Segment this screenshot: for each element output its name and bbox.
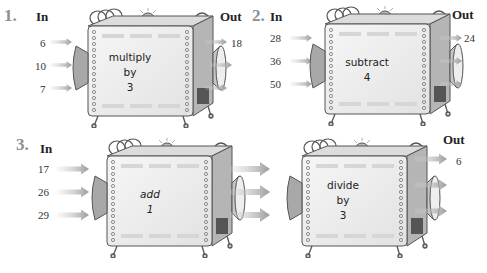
rule-line: multiply bbox=[95, 50, 165, 65]
arrow-right-icon bbox=[205, 81, 227, 95]
problem-number: 1. bbox=[4, 6, 17, 26]
in-label: In bbox=[270, 9, 282, 25]
arrow-right-icon bbox=[230, 162, 270, 176]
arrow-right-icon bbox=[440, 54, 462, 68]
problem-number: 3. bbox=[16, 135, 29, 155]
rule-line: 4 bbox=[332, 70, 402, 85]
arrow-right-icon bbox=[415, 204, 447, 218]
rule-line: subtract bbox=[332, 55, 402, 70]
rule-line: by bbox=[308, 193, 378, 208]
arrow-right-icon bbox=[57, 185, 89, 199]
arrow-right-icon bbox=[440, 77, 462, 91]
rule-line: 1 bbox=[115, 202, 185, 217]
input-value: 7 bbox=[40, 83, 46, 95]
input-value: 28 bbox=[270, 32, 281, 44]
arrow-right-icon bbox=[57, 162, 89, 176]
output-value: 18 bbox=[231, 37, 242, 49]
output-value: 6 bbox=[456, 155, 462, 167]
in-label: In bbox=[36, 9, 48, 25]
machine-rule: add 1 bbox=[115, 187, 185, 217]
machine-rule: subtract 4 bbox=[332, 55, 402, 85]
output-value: 24 bbox=[464, 32, 475, 44]
arrow-right-icon bbox=[230, 208, 270, 222]
arrow-right-icon bbox=[210, 58, 232, 72]
out-label: Out bbox=[443, 132, 465, 148]
arrow-right-icon bbox=[57, 208, 89, 222]
arrow-right-icon bbox=[205, 35, 227, 49]
machine-rule: divide by 3 bbox=[308, 178, 378, 223]
arrow-right-icon bbox=[230, 185, 270, 199]
input-value: 36 bbox=[270, 55, 281, 67]
input-value: 29 bbox=[38, 209, 49, 221]
arrow-right-icon bbox=[440, 31, 462, 45]
problem-number: 2. bbox=[252, 6, 265, 26]
arrow-right-icon bbox=[415, 152, 447, 166]
input-value: 17 bbox=[38, 163, 49, 175]
machine-rule: multiply by 3 bbox=[95, 50, 165, 95]
rule-line: 3 bbox=[308, 208, 378, 223]
input-value: 26 bbox=[38, 186, 49, 198]
input-value: 10 bbox=[35, 60, 46, 72]
rule-line: by bbox=[95, 65, 165, 80]
in-label: In bbox=[40, 141, 52, 157]
arrow-right-icon bbox=[415, 178, 447, 192]
input-value: 50 bbox=[270, 78, 281, 90]
rule-line: add bbox=[115, 187, 185, 202]
rule-line: 3 bbox=[95, 80, 165, 95]
input-value: 6 bbox=[40, 37, 46, 49]
rule-line: divide bbox=[308, 178, 378, 193]
